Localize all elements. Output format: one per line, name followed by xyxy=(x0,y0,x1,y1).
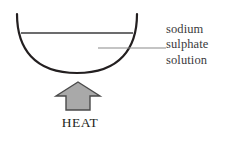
beaker-outline xyxy=(17,14,137,73)
heat-label: HEAT xyxy=(41,115,119,131)
solution-label-line-2: sulphate xyxy=(166,37,242,52)
heat-arrow-icon xyxy=(56,82,100,110)
diagram-canvas: sodium sulphate solution HEAT xyxy=(0,0,243,146)
solution-label-line-3: solution xyxy=(166,53,242,68)
solution-label-line-1: sodium xyxy=(166,22,242,37)
solution-label: sodium sulphate solution xyxy=(166,22,242,68)
